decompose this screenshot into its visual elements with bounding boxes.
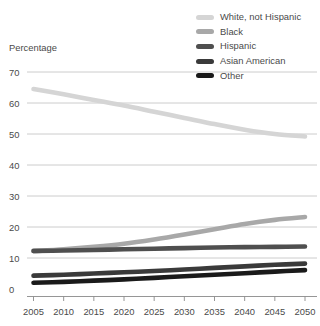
plot-area xyxy=(0,0,320,326)
population-projection-chart: White, not HispanicBlackHispanicAsian Am… xyxy=(0,0,320,326)
series-line xyxy=(34,89,306,136)
